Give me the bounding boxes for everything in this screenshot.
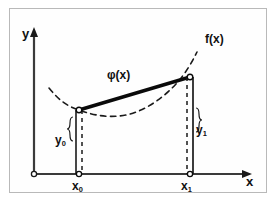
interpolant-line-label: φ(x) — [107, 69, 130, 81]
x1-label-subscript: 1 — [188, 185, 192, 194]
y0-brace-icon — [67, 117, 73, 141]
x1-label-base: x — [181, 179, 188, 193]
x1-tick-marker-icon — [187, 171, 192, 176]
y0-label: y0 — [55, 134, 66, 146]
y-axis-label: y — [22, 27, 29, 40]
x0-label-subscript: 0 — [79, 185, 83, 194]
x-axis-label: x — [246, 175, 253, 188]
plot-canvas — [0, 0, 279, 211]
node-marker-x0y0-icon — [76, 107, 82, 113]
interpolant-line-phi — [79, 77, 190, 110]
y1-label-subscript: 1 — [203, 129, 207, 138]
y1-label-base: y — [196, 123, 203, 137]
ordinate-drop-x0 — [76, 110, 82, 174]
ordinate-drop-x1 — [187, 77, 193, 174]
y-axis-arrow-icon — [30, 27, 38, 37]
interpolation-figure: y x f(x) φ(x) y0 y1 x0 x1 — [0, 0, 279, 211]
y0-label-subscript: 0 — [62, 139, 66, 148]
x0-label-base: x — [72, 179, 79, 193]
function-curve-fx — [49, 52, 197, 116]
origin-marker-icon — [31, 171, 36, 176]
x0-label: x0 — [72, 180, 83, 192]
y0-label-base: y — [55, 133, 62, 147]
node-marker-x1y1-icon — [187, 74, 193, 80]
x1-label: x1 — [181, 180, 192, 192]
x0-tick-marker-icon — [76, 171, 81, 176]
function-curve-label: f(x) — [205, 33, 224, 45]
y1-label: y1 — [196, 124, 207, 136]
